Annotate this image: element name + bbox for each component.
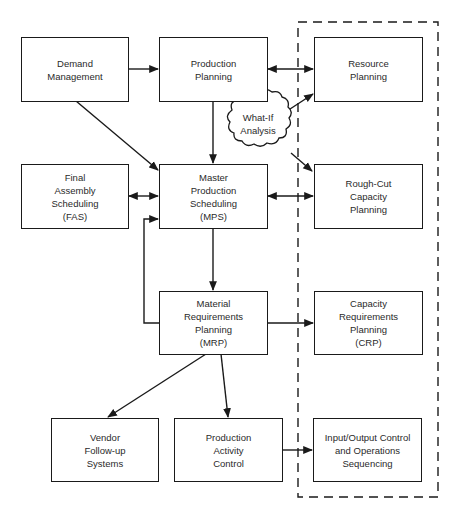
node-label-line: Planning <box>350 323 387 336</box>
node-vendor-follow-up-systems: Vendor Follow-up Systems <box>51 418 159 482</box>
node-label-line: Production <box>191 57 236 70</box>
node-production-planning: Production Planning <box>159 37 268 102</box>
node-production-activity-control: Production Activity Control <box>174 418 283 482</box>
node-label-line: Planning <box>350 203 387 216</box>
node-label-line: Demand <box>57 57 93 70</box>
node-label-line: Resource <box>348 57 389 70</box>
node-label-line: Final <box>65 171 86 184</box>
node-master-production-scheduling: Master Production Scheduling (MPS) <box>159 164 268 229</box>
node-capacity-requirements-planning: Capacity Requirements Planning (CRP) <box>314 291 423 355</box>
node-label-line: Management <box>47 70 102 83</box>
node-label-line: Production <box>206 431 251 444</box>
node-label-line: (MRP) <box>200 336 227 349</box>
node-label-line: (CRP) <box>355 336 381 349</box>
arrow-whatif-to-rough-cut <box>291 153 312 171</box>
node-label-line: Planning <box>350 70 387 83</box>
node-label-line: Input/Output Control <box>325 431 411 444</box>
node-resource-planning: Resource Planning <box>314 37 423 102</box>
node-label-line: Rough-Cut <box>346 177 392 190</box>
arrow-mrp-feedback-to-mps <box>144 219 159 323</box>
node-label-line: Sequencing <box>342 457 392 470</box>
node-label-line: Master <box>199 171 228 184</box>
node-label-line: Scheduling <box>51 197 98 210</box>
node-label-line: and Operations <box>335 444 400 457</box>
node-rough-cut-capacity-planning: Rough-Cut Capacity Planning <box>314 164 423 229</box>
node-label-line: Planning <box>195 70 232 83</box>
node-material-requirements-planning: Material Requirements Planning (MRP) <box>159 291 268 355</box>
what-if-analysis-label: What-If Analysis <box>228 111 288 137</box>
node-label-line: Vendor <box>90 431 120 444</box>
node-label-line: (MPS) <box>200 210 227 223</box>
arrow-whatif-to-resource-planning <box>287 94 313 111</box>
node-label-line: Material <box>197 297 231 310</box>
node-label-line: Requirements <box>184 310 243 323</box>
node-label-line: Scheduling <box>190 197 237 210</box>
node-label-line: (FAS) <box>63 210 87 223</box>
arrow-mrp-to-vendor <box>108 354 206 417</box>
arrow-mrp-to-pac <box>221 354 228 417</box>
node-label-line: Planning <box>195 323 232 336</box>
node-final-assembly-scheduling: Final Assembly Scheduling (FAS) <box>21 164 129 229</box>
arrow-demand-to-mps <box>76 101 158 170</box>
node-label-line: Capacity <box>350 190 387 203</box>
node-demand-management: Demand Management <box>21 37 129 102</box>
what-if-line-2: Analysis <box>228 124 288 137</box>
node-label-line: Production <box>191 184 236 197</box>
node-label-line: Capacity <box>350 297 387 310</box>
node-input-output-control: Input/Output Control and Operations Sequ… <box>313 418 422 482</box>
node-label-line: Assembly <box>54 184 95 197</box>
node-label-line: Requirements <box>339 310 398 323</box>
node-label-line: Activity <box>213 444 243 457</box>
node-label-line: Systems <box>87 457 123 470</box>
node-label-line: Control <box>213 457 244 470</box>
what-if-line-1: What-If <box>228 111 288 124</box>
node-label-line: Follow-up <box>84 444 125 457</box>
